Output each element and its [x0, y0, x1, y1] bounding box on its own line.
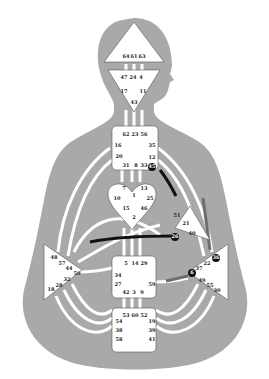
gate-39: 39	[149, 327, 156, 333]
gate-48: 48	[51, 254, 58, 260]
gate-19: 19	[149, 318, 156, 324]
gate-4: 4	[139, 74, 143, 80]
gate-28: 28	[56, 282, 63, 288]
gate-12: 12	[149, 154, 156, 160]
gate-58: 58	[116, 336, 123, 342]
gate-47: 47	[121, 74, 128, 80]
bodygraph-chart: 64 61 63 47 24 4 17 11 43 62 23 56 16 35…	[0, 0, 269, 379]
gate-38: 38	[116, 327, 123, 333]
gate-23: 23	[132, 131, 139, 137]
gate-11: 11	[140, 88, 147, 94]
gate-33: 33	[141, 162, 148, 168]
gate-40: 40	[189, 230, 196, 236]
gate-41: 41	[149, 336, 156, 342]
gate-16: 16	[115, 142, 122, 148]
gate-8: 8	[134, 162, 138, 168]
gate-50: 50	[74, 270, 81, 276]
gate-56: 56	[141, 131, 148, 137]
gate-3: 3	[132, 289, 136, 295]
gate-20: 20	[116, 153, 123, 159]
gate-34: 34	[115, 272, 122, 278]
gate-9: 9	[140, 289, 144, 295]
gate-13: 13	[141, 185, 148, 191]
gate-30: 30	[214, 287, 221, 293]
gate-64: 64	[123, 53, 130, 59]
gate-17: 17	[121, 88, 128, 94]
gate-25: 25	[147, 195, 154, 201]
gate-36: 36	[213, 254, 220, 260]
gate-46: 46	[141, 205, 148, 211]
gate-49: 49	[199, 277, 206, 283]
gate-7: 7	[122, 185, 126, 191]
gate-62: 62	[123, 131, 130, 137]
gate-52: 52	[141, 312, 148, 318]
gate-1: 1	[132, 192, 135, 198]
gate-45: 45	[149, 163, 156, 169]
gate-53: 53	[123, 312, 130, 318]
gate-37: 37	[196, 265, 203, 271]
gate-63: 63	[139, 53, 146, 59]
gate-61: 61	[131, 53, 138, 59]
gate-32: 32	[64, 276, 71, 282]
gate-35: 35	[149, 142, 156, 148]
gate-27: 27	[115, 281, 122, 287]
gate-14: 14	[132, 260, 139, 266]
gate-59: 59	[149, 281, 156, 287]
gate-18: 18	[48, 286, 55, 292]
gate-29: 29	[141, 260, 148, 266]
gate-51: 51	[174, 212, 181, 218]
gate-21: 21	[183, 220, 190, 226]
gate-5: 5	[124, 260, 128, 266]
gate-6: 6	[190, 269, 194, 275]
gate-42: 42	[123, 289, 130, 295]
gate-44: 44	[66, 265, 73, 271]
gate-54: 54	[116, 318, 123, 324]
gate-26: 26	[172, 233, 179, 239]
gate-31: 31	[123, 162, 130, 168]
gate-43: 43	[131, 99, 138, 105]
gate-10: 10	[114, 195, 121, 201]
gate-60: 60	[132, 312, 139, 318]
gate-15: 15	[123, 205, 130, 211]
gate-2: 2	[132, 214, 136, 220]
gate-22: 22	[204, 260, 211, 266]
gate-24: 24	[130, 74, 137, 80]
